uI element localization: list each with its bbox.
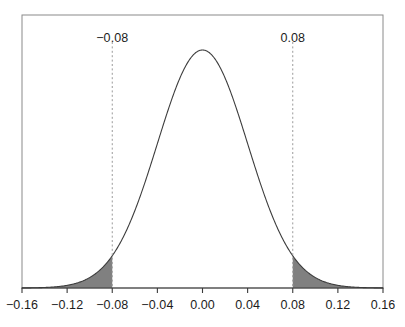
plot-frame — [22, 15, 383, 288]
x-tick-label: 0.12 — [326, 298, 351, 312]
x-tick-label: 0.04 — [235, 298, 260, 312]
plot-canvas — [0, 0, 405, 327]
lower-cutoff-label: −0.08 — [96, 31, 128, 45]
x-axis-tick-marks — [22, 288, 383, 293]
left-tail-shaded-region — [22, 256, 112, 288]
x-tick-label: −0.08 — [96, 298, 128, 312]
x-tick-label: −0.16 — [6, 298, 38, 312]
x-tick-label: 0.00 — [190, 298, 215, 312]
x-tick-label: −0.12 — [51, 298, 83, 312]
x-tick-label: −0.04 — [141, 298, 173, 312]
right-tail-shaded-region — [293, 256, 383, 288]
x-tick-label: 0.16 — [371, 298, 396, 312]
x-tick-label: 0.08 — [280, 298, 305, 312]
normal-density-curve — [22, 50, 383, 288]
normal-distribution-figure: −0.16−0.12−0.08−0.040.000.040.080.120.16… — [0, 0, 405, 327]
upper-cutoff-label: 0.08 — [280, 31, 305, 45]
